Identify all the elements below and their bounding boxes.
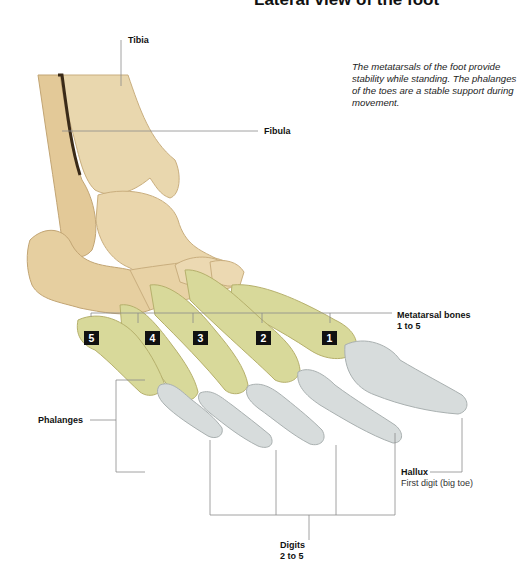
metatarsal-badge-2: 2: [256, 331, 271, 345]
label-tibia: Tibia: [128, 35, 149, 46]
label-phalanges: Phalanges: [38, 415, 83, 426]
foot-illustration: [0, 0, 517, 580]
metatarsal-title: Metatarsal bones: [397, 310, 471, 320]
label-digits: Digits 2 to 5: [280, 540, 305, 562]
hallux-title: Hallux: [401, 467, 428, 477]
label-hallux: Hallux First digit (big toe): [401, 467, 473, 489]
digits-range: 2 to 5: [280, 551, 305, 562]
hallux-subtitle: First digit (big toe): [401, 478, 473, 489]
metatarsal-range: 1 to 5: [397, 321, 471, 332]
metatarsal-badge-4: 4: [145, 331, 160, 345]
phalanx-digit-1: [345, 341, 467, 414]
digits-title: Digits: [280, 540, 305, 550]
label-metatarsal-bones: Metatarsal bones 1 to 5: [397, 310, 471, 332]
metatarsal-badge-1: 1: [322, 331, 337, 345]
metatarsal-badge-3: 3: [193, 331, 208, 345]
metatarsal-badge-5: 5: [84, 331, 99, 345]
label-fibula: Fibula: [264, 126, 291, 137]
